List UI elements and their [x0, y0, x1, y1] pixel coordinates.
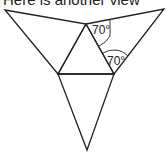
angle-label-right: 70° — [107, 54, 125, 68]
left-outer-triangle — [5, 10, 86, 74]
pyramid-net-diagram: 70° 70° — [0, 0, 166, 152]
bottom-triangle — [58, 74, 114, 150]
angle-label-apex: 70° — [92, 23, 110, 37]
